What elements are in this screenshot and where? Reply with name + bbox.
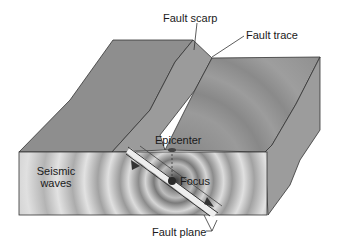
fault-trace-leader: [212, 36, 244, 57]
fault-diagram: Fault scarp Fault trace Epicenter Focus …: [0, 0, 339, 251]
fault-scarp-label: Fault scarp: [163, 12, 217, 24]
seismic-waves-label-line2: waves: [36, 177, 76, 189]
fault-trace-label: Fault trace: [246, 29, 298, 41]
fault-plane-leader-2: [212, 220, 217, 231]
seismic-waves-label-line1: Seismic: [36, 165, 76, 177]
epicenter-marker: [168, 148, 176, 152]
epicenter-label: Epicenter: [155, 134, 201, 146]
fault-plane-label: Fault plane: [152, 226, 206, 238]
seismic-waves-label: Seismic waves: [36, 165, 76, 189]
focus-marker: [168, 177, 176, 185]
focus-label: Focus: [180, 175, 210, 187]
